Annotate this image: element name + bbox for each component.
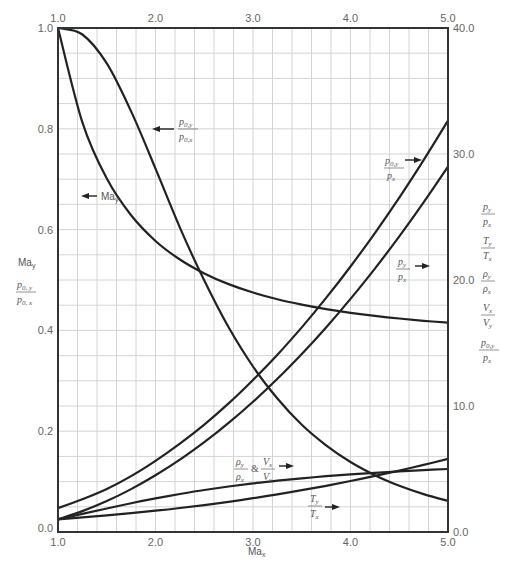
svg-text:p0,y: p0,y	[178, 116, 193, 129]
svg-text:Vx: Vx	[483, 302, 493, 315]
y-tick-right: 40.0	[453, 22, 474, 34]
x-tick-bottom: 1.0	[50, 536, 65, 548]
right-axis-labels: py px Ty Tx ρy ρx Vx Vy p0,y px	[479, 201, 499, 365]
svg-text:px: px	[386, 170, 396, 183]
x-axis-label: Max	[248, 546, 266, 558]
grid-lines	[58, 28, 448, 532]
x-tick-bottom: 4.0	[343, 536, 358, 548]
svg-text:py: py	[397, 256, 407, 269]
svg-text:px: px	[482, 352, 492, 365]
svg-text:py: py	[482, 201, 492, 214]
svg-text:p0, y: p0, y	[16, 279, 33, 292]
y-tick-left: 0.4	[38, 324, 53, 336]
y-tick-right: 10.0	[453, 400, 474, 412]
y-tick-left: 0.0	[38, 522, 53, 534]
svg-text:Vx: Vx	[263, 456, 273, 469]
svg-text:p0,y: p0,y	[384, 155, 399, 168]
svg-text:p0, x: p0, x	[16, 294, 33, 307]
svg-text:Vy: Vy	[483, 317, 493, 330]
y-tick-left: 0.8	[38, 123, 53, 135]
y-tick-right: 20.0	[453, 274, 474, 286]
x-tick-top: 4.0	[343, 12, 358, 24]
left-axis-label: May p0, y p0, x	[16, 257, 36, 307]
svg-text:ρy: ρy	[482, 268, 492, 281]
svg-text:px: px	[397, 271, 407, 284]
svg-text:Ty: Ty	[483, 235, 493, 248]
y-tick-right: 30.0	[453, 148, 474, 160]
svg-text:px: px	[482, 216, 492, 229]
svg-text:ρx: ρx	[482, 283, 492, 296]
svg-text:p0,y: p0,y	[480, 337, 495, 350]
svg-text:p0,x: p0,x	[178, 131, 193, 144]
svg-text:May: May	[18, 257, 36, 270]
normal-shock-chart: 1.02.03.04.05.01.02.03.04.05.00.00.20.40…	[0, 0, 510, 567]
svg-text:&: &	[251, 463, 259, 474]
y-tick-left: 0.6	[38, 224, 53, 236]
y-tick-left: 0.2	[38, 425, 53, 437]
x-tick-top: 3.0	[245, 12, 260, 24]
x-tick-top: 2.0	[148, 12, 163, 24]
y-tick-left: 1.0	[38, 22, 53, 34]
y-tick-right: 0.0	[453, 526, 468, 538]
svg-text:Tx: Tx	[483, 250, 493, 263]
annotation-ma-y: May	[81, 191, 119, 204]
x-tick-bottom: 2.0	[148, 536, 163, 548]
svg-text:ρy: ρy	[235, 456, 245, 469]
